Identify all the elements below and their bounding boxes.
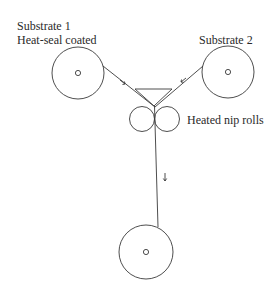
rewind-roll	[119, 225, 173, 279]
substrate1-web	[103, 66, 155, 107]
substrate2-label: Substrate 2	[199, 33, 253, 47]
roll-core-icon	[225, 69, 230, 74]
arrow-down-right-icon	[120, 80, 125, 85]
nip-roll-left	[130, 107, 155, 132]
substrate1-label: Substrate 1	[17, 19, 71, 33]
unwind-roll-2	[202, 46, 254, 98]
substrate2-web	[155, 66, 203, 107]
arrow-down-icon	[163, 173, 166, 181]
roll-core-icon	[143, 249, 148, 254]
substrate1-sublabel: Heat-seal coated	[17, 33, 97, 47]
unwind-roll-1	[52, 47, 104, 99]
nip-roll-right	[155, 107, 180, 132]
nip-rolls-label: Heated nip rolls	[187, 113, 264, 127]
laminate-web	[155, 106, 159, 227]
roll-core-icon	[75, 70, 80, 75]
